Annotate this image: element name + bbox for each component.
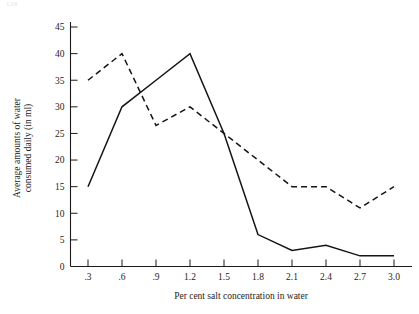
y-tick-label: 20 (55, 155, 65, 165)
x-tick-label: 1.5 (218, 272, 230, 282)
axes-group (71, 22, 413, 267)
series-group (88, 54, 394, 256)
y-axis-ticks: 051015202530354045 (55, 22, 78, 272)
svg-text:consumed daily (in ml): consumed daily (in ml) (23, 104, 34, 192)
y-tick-label: 45 (55, 22, 65, 32)
y-tick-label: 0 (60, 262, 65, 272)
x-tick-label: 1.2 (184, 272, 196, 282)
y-axis-title: Average amounts of water consumed daily … (12, 97, 34, 198)
x-tick-label: 1.8 (252, 272, 264, 282)
y-tick-label: 25 (55, 129, 65, 139)
y-tick-label: 35 (55, 76, 65, 86)
y-tick-label: 15 (55, 182, 65, 192)
y-tick-label: 30 (55, 102, 65, 112)
x-tick-label: .9 (152, 272, 159, 282)
line-chart: 051015202530354045 .3.6.91.21.51.82.12.4… (0, 0, 419, 314)
x-tick-label: .3 (84, 272, 91, 282)
x-axis-title: Per cent salt concentration in water (174, 291, 309, 301)
x-tick-label: 3.0 (388, 272, 400, 282)
x-tick-label: 2.7 (354, 272, 366, 282)
y-tick-label: 5 (60, 235, 65, 245)
x-tick-label: .6 (118, 272, 125, 282)
chart-figure: 126 051015202530354045 .3.6.91.21.51.82.… (0, 0, 419, 314)
x-tick-label: 2.4 (320, 272, 332, 282)
x-tick-label: 2.1 (286, 272, 298, 282)
x-axis-ticks: .3.6.91.21.51.82.12.42.73.0 (84, 260, 400, 282)
svg-text:Average amounts of water: Average amounts of water (12, 97, 22, 198)
page-number: 126 (6, 0, 18, 8)
y-tick-label: 10 (55, 209, 65, 219)
y-tick-label: 40 (55, 49, 65, 59)
data-line-solid (88, 54, 394, 256)
